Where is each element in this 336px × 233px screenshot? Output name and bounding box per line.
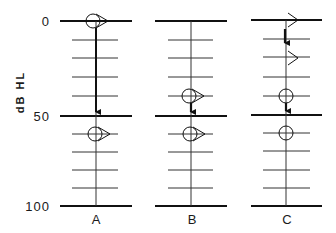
y-axis-label: dB HL [14, 71, 26, 113]
chevron-symbol-20 [288, 51, 298, 65]
panel-label-c: C [282, 212, 291, 227]
panel-label-a: A [92, 212, 101, 227]
y-tick-50: 50 [34, 109, 50, 124]
audiogram-diagram: 0 50 100 dB HL A [0, 0, 336, 233]
panel-b: B [155, 21, 227, 227]
y-tick-100: 100 [25, 199, 50, 214]
y-axis: 0 50 100 dB HL [14, 14, 50, 214]
panel-a: A [60, 14, 132, 227]
y-tick-0: 0 [42, 14, 50, 29]
panel-c: C [251, 13, 322, 227]
panel-label-b: B [188, 212, 197, 227]
